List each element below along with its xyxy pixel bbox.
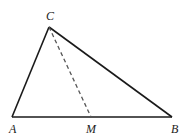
label-m: M bbox=[85, 122, 97, 136]
label-a: A bbox=[8, 122, 17, 136]
median-cm bbox=[49, 27, 91, 117]
segment-bc bbox=[49, 27, 172, 117]
label-c: C bbox=[46, 9, 55, 23]
label-b: B bbox=[171, 122, 179, 136]
triangle-diagram: C A M B bbox=[0, 0, 186, 139]
segment-ac bbox=[12, 27, 49, 117]
